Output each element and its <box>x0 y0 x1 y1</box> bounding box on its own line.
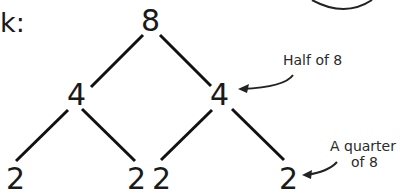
tree-node-left: 4 <box>67 80 86 110</box>
tree-leaf-1: 2 <box>6 164 25 194</box>
tree-leaf-2: 2 <box>127 164 146 194</box>
tree-node-right: 4 <box>210 80 229 110</box>
circle-fragment <box>312 0 372 9</box>
annotation-quarter-line1: A quarter <box>330 138 396 155</box>
branch-line <box>91 35 143 87</box>
branch-line <box>161 110 212 160</box>
annotation-quarter-line2: of 8 <box>351 154 378 171</box>
intro-text: k: <box>0 8 25 38</box>
branch-line <box>16 110 68 161</box>
tree-leaf-4: 2 <box>279 164 298 194</box>
branch-line <box>232 109 284 160</box>
arrowhead-icon <box>302 170 312 179</box>
branch-line <box>160 35 211 86</box>
arrowhead-icon <box>238 84 249 93</box>
tree-lines <box>0 0 403 194</box>
tree-node-root: 8 <box>141 6 160 36</box>
arrow-half <box>242 75 293 89</box>
branch-line <box>82 109 135 161</box>
annotation-half: Half of 8 <box>283 52 342 69</box>
tree-leaf-3: 2 <box>152 164 171 194</box>
